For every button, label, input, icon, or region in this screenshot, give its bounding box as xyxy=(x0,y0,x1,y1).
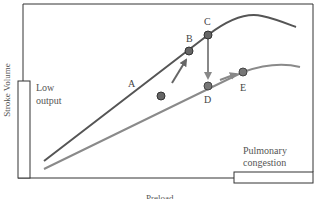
x-axis-label: Preload xyxy=(146,192,174,199)
upper-curve xyxy=(44,15,296,161)
low-output-label-1: Low xyxy=(36,82,54,94)
pulmonary-congestion-box xyxy=(234,172,313,183)
point-a xyxy=(157,92,165,100)
pulmonary-label-2: congestion xyxy=(243,157,286,169)
y-axis-label: Stroke Volume xyxy=(1,55,13,125)
point-c xyxy=(204,31,212,39)
point-b xyxy=(185,47,193,55)
label-d: D xyxy=(204,94,211,105)
point-d xyxy=(204,82,212,90)
low-output-box xyxy=(18,81,30,178)
point-e xyxy=(239,68,247,76)
label-a: A xyxy=(128,78,135,89)
arrow-a-b xyxy=(172,60,186,83)
low-output-label-2: output xyxy=(36,95,62,107)
label-e: E xyxy=(240,82,246,93)
label-b: B xyxy=(186,33,193,44)
pulmonary-label-1: Pulmonary xyxy=(243,145,287,157)
label-c: C xyxy=(204,16,211,27)
